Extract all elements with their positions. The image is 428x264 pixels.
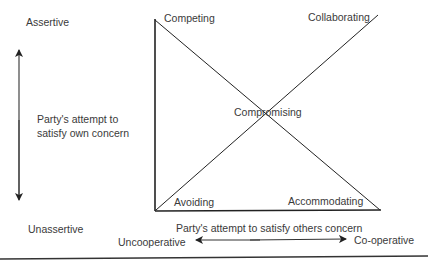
mode-collaborating: Collaborating xyxy=(308,11,370,23)
horizontal-axis-description: Party's attempt to satisfy others concer… xyxy=(176,222,362,234)
bottom-rule xyxy=(0,256,428,259)
mode-compromising: Compromising xyxy=(234,106,302,118)
mode-competing: Competing xyxy=(164,12,215,24)
vertical-axis-description-1: Party's attempt to xyxy=(37,113,118,125)
vertical-axis-description-2: satisfy own concern xyxy=(37,127,129,139)
unassertive-label: Unassertive xyxy=(28,223,83,235)
cooperative-label: Co-operative xyxy=(354,234,414,246)
assertive-label: Assertive xyxy=(26,16,69,28)
frame-bottom-edge xyxy=(155,210,381,211)
mode-accommodating: Accommodating xyxy=(288,195,363,207)
uncooperative-label: Uncooperative xyxy=(118,236,186,248)
mode-avoiding: Avoiding xyxy=(174,196,214,208)
cooperativeness-arrow-right xyxy=(250,239,346,240)
